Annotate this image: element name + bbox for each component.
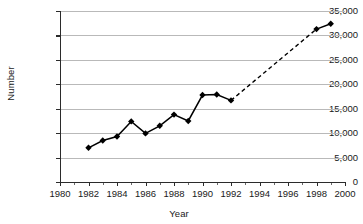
series-line-observed bbox=[89, 95, 232, 148]
data-point-marker bbox=[328, 21, 334, 27]
data-point-marker bbox=[85, 145, 91, 151]
data-point-marker bbox=[100, 137, 106, 143]
data-point-marker bbox=[214, 91, 220, 97]
data-point-marker bbox=[199, 92, 205, 98]
data-point-marker bbox=[185, 118, 191, 124]
series-line-projected-gap bbox=[231, 29, 317, 100]
